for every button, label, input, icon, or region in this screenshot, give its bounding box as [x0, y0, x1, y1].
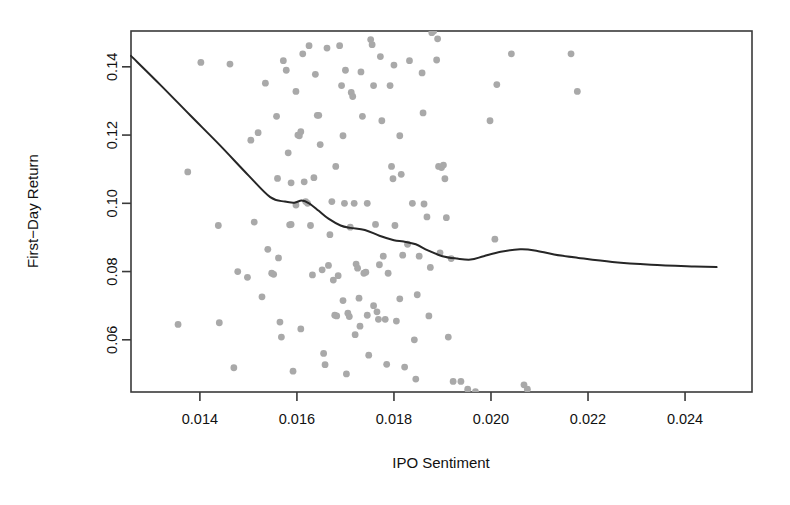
data-point [377, 53, 384, 60]
data-point [372, 221, 379, 228]
x-tick-label: 0.016 [279, 411, 315, 427]
data-point [320, 350, 327, 357]
y-axis-tick-labels: 0.060.080.100.120.14 [104, 53, 120, 354]
data-point [274, 175, 281, 182]
data-point [378, 117, 385, 124]
data-point [387, 82, 394, 89]
data-point [388, 163, 395, 170]
data-point [370, 82, 377, 89]
y-axis-title: First−Day Return [24, 154, 41, 268]
x-axis-ticks [200, 392, 685, 401]
data-point [290, 368, 297, 375]
data-point [443, 214, 450, 221]
data-point [197, 59, 204, 66]
x-tick-label: 0.014 [182, 411, 218, 427]
data-point [332, 163, 339, 170]
data-point [383, 361, 390, 368]
data-point [393, 318, 400, 325]
y-tick-label: 0.08 [104, 257, 120, 285]
data-point [351, 200, 358, 207]
data-point [396, 295, 403, 302]
data-point [317, 141, 324, 148]
x-axis-title: IPO Sentiment [392, 454, 490, 471]
data-point [264, 246, 271, 253]
data-point [391, 62, 398, 69]
data-point [382, 316, 389, 323]
data-point [420, 109, 427, 116]
data-point [354, 265, 361, 272]
y-tick-label: 0.06 [104, 326, 120, 354]
data-point [508, 50, 515, 57]
data-point [307, 222, 314, 229]
data-point [416, 253, 423, 260]
x-tick-label: 0.020 [473, 411, 509, 427]
data-point [297, 128, 304, 135]
data-point [285, 149, 292, 156]
data-point [427, 264, 434, 271]
data-point [312, 71, 319, 78]
data-point [365, 352, 372, 359]
data-point [493, 81, 500, 88]
data-point [306, 42, 313, 49]
data-point [433, 57, 440, 64]
x-tick-label: 0.022 [570, 411, 606, 427]
data-point [255, 129, 262, 136]
data-point [370, 302, 377, 309]
data-point [358, 69, 365, 76]
data-point [325, 262, 332, 269]
data-point [568, 50, 575, 57]
data-point [445, 334, 452, 341]
data-point [336, 42, 343, 49]
data-point [251, 219, 258, 226]
x-axis-tick-labels: 0.0140.0160.0180.0200.0220.024 [182, 411, 703, 427]
scatter-plot: 0.0140.0160.0180.0200.0220.024 0.060.080… [0, 0, 790, 505]
data-point [399, 252, 406, 259]
data-point [315, 112, 322, 119]
plot-frame [131, 31, 752, 392]
data-point [343, 371, 350, 378]
data-point [270, 271, 277, 278]
data-point [280, 57, 287, 64]
data-point [262, 80, 269, 87]
data-point [398, 171, 405, 178]
data-point [430, 28, 437, 35]
data-point [524, 386, 531, 393]
data-point [288, 179, 295, 186]
data-point [364, 312, 371, 319]
data-point [458, 378, 465, 385]
data-point [301, 178, 308, 185]
data-point [352, 331, 359, 338]
data-point [227, 61, 234, 68]
data-point [411, 336, 418, 343]
data-point [340, 297, 347, 304]
data-point [299, 50, 306, 57]
data-point [425, 313, 432, 320]
data-point [335, 272, 342, 279]
data-point [396, 132, 403, 139]
x-tick-label: 0.024 [667, 411, 703, 427]
data-point [487, 117, 494, 124]
data-point [412, 376, 419, 383]
data-point [434, 35, 441, 42]
data-point [440, 162, 447, 169]
data-point [369, 41, 376, 48]
data-point [328, 198, 335, 205]
data-point [346, 313, 353, 320]
data-point [230, 364, 237, 371]
data-point [340, 132, 347, 139]
y-axis-ticks [122, 67, 131, 340]
data-point [333, 313, 340, 320]
data-point [357, 323, 364, 330]
data-point [341, 200, 348, 207]
plot-box-border [131, 31, 752, 392]
data-point [491, 236, 498, 243]
data-point [401, 364, 408, 371]
data-point [297, 325, 304, 332]
data-point [414, 291, 421, 298]
data-point [380, 253, 387, 260]
y-tick-label: 0.12 [104, 121, 120, 149]
x-tick-label: 0.018 [376, 411, 412, 427]
scatter-points [175, 28, 581, 395]
data-point [275, 255, 282, 262]
data-point [327, 231, 334, 238]
